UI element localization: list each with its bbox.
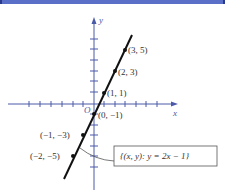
point-marker	[92, 112, 96, 116]
point-label: (−2, −5)	[30, 151, 60, 161]
point-marker	[102, 91, 106, 95]
point-marker	[123, 48, 127, 52]
point-label: (3, 5)	[128, 45, 148, 55]
point-marker	[71, 154, 75, 158]
equation-callout-text: {(x, y): y = 2x − 1}	[120, 151, 189, 161]
y-axis-arrow-icon	[92, 17, 97, 24]
point-marker	[113, 69, 117, 73]
callout-leader	[80, 148, 114, 161]
y-axis-label: y	[98, 15, 103, 25]
point-label: (0, −1)	[98, 110, 123, 120]
point-label: (1, 1)	[107, 88, 127, 98]
point-label: (−1, −3)	[40, 130, 70, 140]
origin-label: O	[84, 105, 91, 115]
point-marker	[81, 133, 85, 137]
coordinate-plane: y x O (3, 5) (2, 3) (1, 1) (0, −1) (−1, …	[0, 0, 225, 195]
x-axis-label: x	[172, 108, 177, 118]
point-label: (2, 3)	[118, 67, 138, 77]
x-axis	[8, 101, 178, 107]
x-axis-arrow-icon	[171, 102, 178, 107]
